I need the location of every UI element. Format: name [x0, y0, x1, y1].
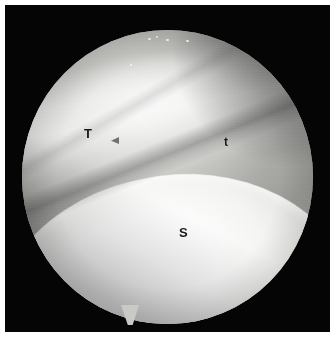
photograph-field: T t S [5, 5, 330, 332]
bright-structure-edge [22, 137, 313, 324]
specular-speck [156, 36, 158, 38]
specular-speck [130, 64, 132, 66]
figure-root: T t S [0, 0, 335, 337]
scope-tail-notch [119, 305, 141, 327]
annotation-label-t: t [224, 136, 228, 148]
specular-speck [186, 40, 189, 42]
scope-tail-shape [119, 305, 141, 325]
annotation-label-T: T [84, 127, 92, 140]
specular-speck [166, 39, 169, 41]
arthroscope-circular-view [22, 30, 313, 324]
annotation-label-S: S [179, 226, 188, 239]
specular-speck [148, 38, 151, 40]
